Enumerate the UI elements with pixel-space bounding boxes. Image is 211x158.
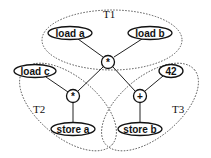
node-label: store a <box>57 124 90 135</box>
node-store-b: store b <box>118 123 162 136</box>
node-label: store b <box>123 124 156 135</box>
group-label-t3: T3 <box>172 103 185 115</box>
node-add: + <box>134 90 147 103</box>
dataflow-diagram: T1 T2 T3 load a load b * load c * store … <box>0 0 211 158</box>
edges <box>46 39 163 123</box>
node-label: 42 <box>165 66 177 77</box>
node-load-a: load a <box>48 27 92 40</box>
node-label: load c <box>21 66 50 77</box>
node-multiply-top: * <box>102 56 115 69</box>
edge-load-a-to-mul <box>78 39 103 57</box>
node-multiply-left: * <box>67 90 80 103</box>
edge-load-c-to-mul <box>46 77 68 92</box>
multiply-icon: * <box>71 91 75 102</box>
group-label-t1: T1 <box>103 8 115 20</box>
node-load-b: load b <box>128 27 172 40</box>
node-const-42: 42 <box>159 65 183 78</box>
multiply-icon: * <box>106 57 110 68</box>
plus-icon: + <box>137 91 143 102</box>
node-load-c: load c <box>14 65 56 78</box>
edge-mul-to-add <box>113 67 135 91</box>
node-store-a: store a <box>51 123 95 136</box>
edge-load-b-to-mul <box>114 39 142 57</box>
edge-42-to-add <box>145 76 163 91</box>
group-label-t2: T2 <box>33 103 45 115</box>
node-label: load b <box>135 28 164 39</box>
node-label: load a <box>56 28 85 39</box>
